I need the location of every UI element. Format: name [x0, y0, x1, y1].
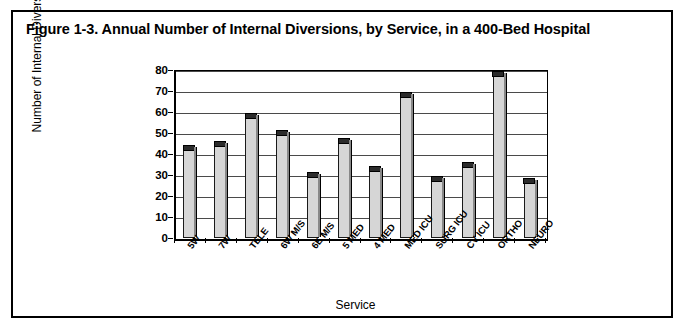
bar — [183, 148, 195, 238]
y-tick-label: 20 — [155, 190, 168, 202]
x-tick-mark — [483, 238, 484, 243]
bar — [245, 116, 257, 238]
y-tick-mark — [168, 154, 173, 155]
bar-top-cap — [307, 172, 319, 178]
bar — [338, 141, 350, 238]
y-tick-mark — [168, 133, 173, 134]
y-tick-mark — [168, 238, 173, 239]
bar — [276, 133, 288, 238]
x-tick-mark — [452, 238, 453, 243]
x-tick-mark — [545, 238, 546, 243]
bar-top-cap — [462, 162, 474, 168]
bar — [400, 95, 412, 238]
bar-top-cap — [400, 92, 412, 98]
y-tick-label: 10 — [155, 211, 168, 223]
bar — [524, 181, 536, 238]
x-tick-mark — [514, 238, 515, 243]
y-tick-label: 30 — [155, 169, 168, 181]
bar-side-face — [194, 147, 197, 237]
x-axis-title-text: Service — [311, 298, 375, 312]
y-tick-label: 70 — [155, 85, 168, 97]
figure-root: Figure 1-3. Annual Number of Internal Di… — [0, 0, 687, 334]
y-axis-ticks: 01020304050607080 — [140, 70, 168, 238]
bar-top-cap — [276, 130, 288, 136]
bar-top-cap — [492, 71, 504, 77]
x-tick-mark — [236, 238, 237, 243]
x-tick-mark — [174, 238, 175, 243]
y-tick-mark — [168, 70, 173, 71]
bar — [462, 165, 474, 239]
bar-top-cap — [523, 178, 535, 184]
y-tick-label: 80 — [155, 64, 168, 76]
bar — [493, 74, 505, 238]
x-tick-mark — [267, 238, 268, 243]
y-tick-label: 60 — [155, 106, 168, 118]
y-tick-mark — [168, 175, 173, 176]
y-tick-mark — [168, 112, 173, 113]
x-tick-mark — [329, 238, 330, 243]
bar-side-face — [225, 143, 228, 238]
x-tick-mark — [205, 238, 206, 243]
bar-side-face — [411, 94, 414, 237]
x-tick-mark — [421, 238, 422, 243]
bar-top-cap — [183, 145, 195, 151]
y-axis-title: Number of Internal Diversions — [30, 0, 44, 153]
x-tick-mark — [390, 238, 391, 243]
bar-top-cap — [338, 138, 350, 144]
bar-top-cap — [214, 141, 226, 147]
bar-top-cap — [369, 166, 381, 172]
y-tick-mark — [168, 91, 173, 92]
bar-side-face — [287, 132, 290, 237]
bar-side-face — [380, 168, 383, 237]
chart-plot: Number of Internal Diversions 0102030405… — [0, 0, 687, 334]
bar-top-cap — [245, 113, 257, 119]
bar-side-face — [473, 164, 476, 238]
bar — [431, 179, 443, 238]
bar-side-face — [349, 140, 352, 237]
y-tick-mark — [168, 196, 173, 197]
bar-side-face — [504, 73, 507, 237]
x-tick-mark — [360, 238, 361, 243]
bars-layer — [174, 70, 545, 238]
bar-side-face — [256, 115, 259, 237]
x-tick-mark — [298, 238, 299, 243]
y-tick-label: 40 — [155, 148, 168, 160]
bar — [214, 144, 226, 239]
x-axis-labels: 5W7WTELE6W M/S6E M/S5 MED4 MEDMED ICUSUR… — [174, 244, 545, 294]
bar — [369, 169, 381, 238]
y-tick-mark — [168, 217, 173, 218]
x-axis-title: Service — [0, 298, 687, 312]
bar — [307, 175, 319, 238]
y-tick-label: 50 — [155, 127, 168, 139]
bar-top-cap — [431, 176, 443, 182]
